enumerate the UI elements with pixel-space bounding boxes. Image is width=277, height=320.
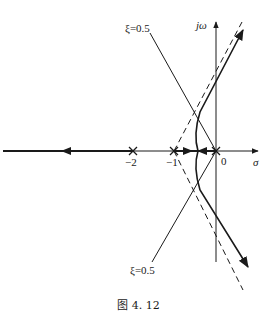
damping-label-upper: ξ=0.5 bbox=[125, 23, 150, 34]
damping-label-lower: ξ=0.5 bbox=[130, 265, 155, 276]
origin-label: 0 bbox=[221, 156, 227, 167]
asymptote-lines bbox=[174, 22, 243, 290]
figure-caption: 图 4. 12 bbox=[0, 296, 277, 312]
pole-label-minus-1: −1 bbox=[166, 157, 178, 168]
locus-complex-branches bbox=[196, 30, 248, 267]
imag-axis-label: jω bbox=[196, 20, 207, 31]
pole-label-minus-2: −2 bbox=[125, 157, 137, 168]
damping-ratio-lines bbox=[150, 33, 216, 262]
real-axis-label: σ bbox=[253, 157, 258, 168]
